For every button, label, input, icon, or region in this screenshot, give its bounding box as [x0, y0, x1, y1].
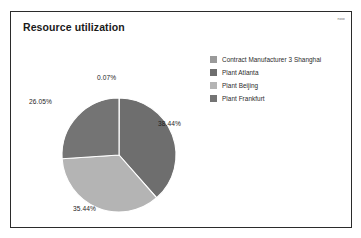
chart-panel: Resource utilization now Contract Manufa… [10, 11, 352, 228]
pie-slice[interactable] [62, 98, 119, 159]
pie-chart-svg[interactable] [11, 12, 353, 229]
screenshot-root: Resource utilization now Contract Manufa… [0, 0, 361, 238]
pie-chart: 0.07% 38.44% 35.44% 26.05% [11, 12, 353, 229]
